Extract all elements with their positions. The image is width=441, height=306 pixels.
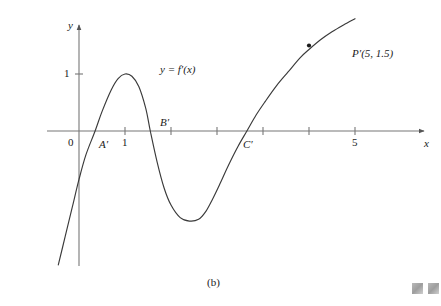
point-label-c-prime: C′ (243, 139, 253, 150)
plot-canvas (0, 0, 441, 306)
origin-label: 0 (68, 137, 74, 148)
point-label-p-prime: P′(5, 1.5) (352, 48, 393, 59)
corner-mark-left (412, 283, 423, 294)
x-tick-label-1: 1 (122, 137, 128, 148)
x-axis-label: x (424, 138, 429, 149)
figure-panel-b: y x 0 1 1 5 y = f′(x) A′ B′ C′ P′(5, 1.5… (0, 0, 441, 306)
point-label-b-prime: B′ (160, 117, 169, 128)
curve-equation-label: y = f′(x) (160, 64, 195, 75)
x-tick-label-5: 5 (352, 137, 358, 148)
page-corner-marks (412, 283, 439, 294)
y-tick-label-1: 1 (64, 68, 70, 79)
corner-mark-right (428, 283, 439, 294)
point-marker-P (307, 43, 311, 47)
y-axis-label: y (68, 20, 73, 31)
figure-caption: (b) (207, 276, 220, 288)
point-label-a-prime: A′ (99, 139, 108, 150)
